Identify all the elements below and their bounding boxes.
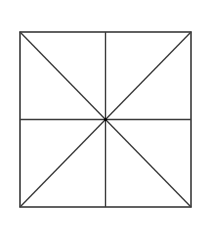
square-diagram (0, 0, 206, 227)
center-point (104, 118, 107, 121)
